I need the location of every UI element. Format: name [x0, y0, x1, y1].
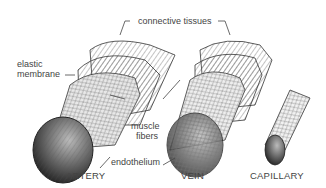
label-membrane: membrane: [17, 69, 60, 79]
label-endothelium: endothelium: [111, 157, 160, 167]
label-muscle: muscle: [131, 121, 160, 131]
caption-vein: VEIN: [181, 170, 204, 181]
caption-capillary: CAPILLARY: [250, 170, 304, 181]
vein-illustration: [167, 41, 272, 177]
capillary-illustration: [265, 90, 310, 165]
label-fibers: fibers: [136, 131, 158, 141]
label-connective-tissues: connective tissues: [138, 16, 212, 26]
label-elastic: elastic: [17, 59, 43, 69]
blood-vessel-diagram: [0, 0, 326, 188]
caption-artery: ARTERY: [66, 170, 105, 181]
